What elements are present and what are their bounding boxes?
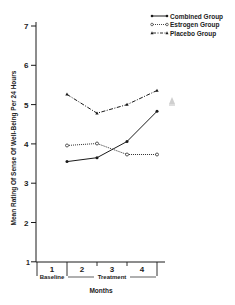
series-placebo-group <box>65 89 158 115</box>
data-point-marker <box>66 160 69 163</box>
scan-artifact <box>169 97 175 106</box>
treatment-label: Treatment <box>98 274 127 280</box>
y-tick-label: 1 <box>26 259 30 266</box>
data-point-marker <box>96 156 99 159</box>
legend-label-placebo: Placebo Group <box>170 30 216 38</box>
x-axis: 1 2 3 4 Baseline Treatment Months <box>36 262 165 294</box>
y-tick-label: 5 <box>24 101 29 110</box>
x-axis-title: Months <box>89 287 112 294</box>
y-tick-label: 4 <box>24 140 29 149</box>
line-chart: Combined Group Estrogen Group Placebo Gr… <box>0 0 235 305</box>
legend-label-estrogen: Estrogen Group <box>170 21 220 29</box>
legend: Combined Group Estrogen Group Placebo Gr… <box>151 13 224 38</box>
series-line <box>67 144 157 155</box>
data-point-marker <box>156 110 159 113</box>
y-ticks <box>31 26 36 262</box>
data-point-marker <box>156 153 159 156</box>
series-layer <box>65 89 158 163</box>
legend-item-placebo: Placebo Group <box>151 30 217 38</box>
y-tick-label: 3 <box>24 179 29 188</box>
series-estrogen-group <box>66 142 159 156</box>
x-tick-label: 4 <box>140 265 145 274</box>
y-axis: 7 6 5 4 3 2 1 Mean Rating Of Sense Of We… <box>10 22 36 266</box>
data-point-marker <box>126 153 129 156</box>
series-combined-group <box>66 110 159 163</box>
y-axis-title: Mean Rating Of Sense Of Well-Being Per 2… <box>10 70 18 225</box>
data-point-marker <box>65 93 68 96</box>
y-tick-label: 6 <box>24 61 29 70</box>
x-tick-label: 2 <box>80 265 85 274</box>
data-point-marker <box>66 144 69 147</box>
y-tick-label: 2 <box>24 219 29 228</box>
x-tick-label: 1 <box>50 265 55 274</box>
y-tick-label: 7 <box>24 22 29 31</box>
x-tick-label: 3 <box>110 265 115 274</box>
legend-label-combined: Combined Group <box>170 13 223 21</box>
legend-item-estrogen: Estrogen Group <box>151 21 220 29</box>
data-point-marker <box>96 142 99 145</box>
series-line <box>67 91 157 114</box>
legend-item-combined: Combined Group <box>151 13 223 21</box>
data-point-marker <box>126 140 129 143</box>
data-point-marker <box>155 89 158 92</box>
baseline-label: Baseline <box>40 274 65 280</box>
